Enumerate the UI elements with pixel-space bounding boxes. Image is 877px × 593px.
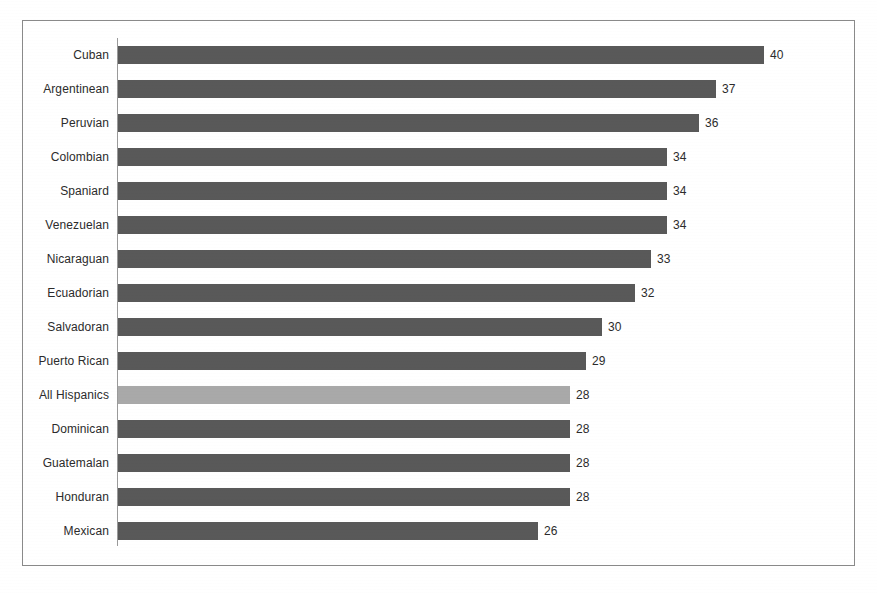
bar-rect-highlighted — [118, 386, 570, 404]
bar-track: 37 — [118, 72, 856, 106]
bar-track: 34 — [118, 208, 856, 242]
bar-value-label: 40 — [770, 46, 783, 64]
bar-row: Colombian 34 — [23, 140, 856, 174]
bar-track: 28 — [118, 412, 856, 446]
bar-value-label: 34 — [673, 182, 686, 200]
bar-rect — [118, 114, 699, 132]
bar-track: 29 — [118, 344, 856, 378]
bar-category-label: Cuban — [23, 38, 109, 72]
bar-rect — [118, 454, 570, 472]
bar-value-label: 28 — [576, 420, 589, 438]
bar-value-label: 34 — [673, 216, 686, 234]
bar-value-label: 36 — [705, 114, 718, 132]
bar-category-label: Argentinean — [23, 72, 109, 106]
bar-value-label: 30 — [608, 318, 621, 336]
bar-category-label: Spaniard — [23, 174, 109, 208]
bar-track: 34 — [118, 140, 856, 174]
bar-rect — [118, 46, 764, 64]
bar-row: Ecuadorian 32 — [23, 276, 856, 310]
bar-category-label: All Hispanics — [23, 378, 109, 412]
bar-category-label: Dominican — [23, 412, 109, 446]
bar-rect — [118, 80, 716, 98]
bar-rect — [118, 182, 667, 200]
bar-row: Dominican 28 — [23, 412, 856, 446]
bar-row: Spaniard 34 — [23, 174, 856, 208]
bar-value-label: 26 — [544, 522, 557, 540]
bar-rect — [118, 420, 570, 438]
bar-category-label: Peruvian — [23, 106, 109, 140]
bar-row: Cuban 40 — [23, 38, 856, 72]
bar-row: Salvadoran 30 — [23, 310, 856, 344]
bar-track: 28 — [118, 480, 856, 514]
bar-category-label: Colombian — [23, 140, 109, 174]
bar-track: 28 — [118, 446, 856, 480]
bar-track: 28 — [118, 378, 856, 412]
bar-row-highlighted: All Hispanics 28 — [23, 378, 856, 412]
chart-frame-border: Cuban 40 Argentinean 37 Peruvian — [22, 20, 855, 566]
bar-value-label: 28 — [576, 386, 589, 404]
bar-chart-figure: Cuban 40 Argentinean 37 Peruvian — [0, 0, 877, 593]
bar-category-label: Honduran — [23, 480, 109, 514]
bar-row: Puerto Rican 29 — [23, 344, 856, 378]
bar-category-label: Puerto Rican — [23, 344, 109, 378]
bar-track: 32 — [118, 276, 856, 310]
bar-value-label: 32 — [641, 284, 654, 302]
bar-row: Argentinean 37 — [23, 72, 856, 106]
bar-row: Peruvian 36 — [23, 106, 856, 140]
bar-row: Guatemalan 28 — [23, 446, 856, 480]
bar-rect — [118, 216, 667, 234]
plot-area: Cuban 40 Argentinean 37 Peruvian — [23, 21, 856, 567]
bar-rect — [118, 250, 651, 268]
bar-row: Honduran 28 — [23, 480, 856, 514]
bar-value-label: 29 — [592, 352, 605, 370]
bar-rect — [118, 488, 570, 506]
bar-value-label: 34 — [673, 148, 686, 166]
bar-rect — [118, 148, 667, 166]
bar-rect — [118, 284, 635, 302]
bar-rect — [118, 352, 586, 370]
bar-value-label: 37 — [722, 80, 735, 98]
bar-value-label: 28 — [576, 488, 589, 506]
bar-track: 33 — [118, 242, 856, 276]
bar-track: 40 — [118, 38, 856, 72]
bar-track: 36 — [118, 106, 856, 140]
bar-category-label: Mexican — [23, 514, 109, 548]
bar-row: Venezuelan 34 — [23, 208, 856, 242]
bar-category-label: Guatemalan — [23, 446, 109, 480]
bar-category-label: Nicaraguan — [23, 242, 109, 276]
bar-category-label: Salvadoran — [23, 310, 109, 344]
bar-track: 26 — [118, 514, 856, 548]
bar-track: 34 — [118, 174, 856, 208]
bar-rect — [118, 318, 602, 336]
bar-value-label: 33 — [657, 250, 670, 268]
bar-row: Nicaraguan 33 — [23, 242, 856, 276]
bar-category-label: Venezuelan — [23, 208, 109, 242]
bar-value-label: 28 — [576, 454, 589, 472]
bar-track: 30 — [118, 310, 856, 344]
bar-rect — [118, 522, 538, 540]
bar-row: Mexican 26 — [23, 514, 856, 548]
bar-category-label: Ecuadorian — [23, 276, 109, 310]
